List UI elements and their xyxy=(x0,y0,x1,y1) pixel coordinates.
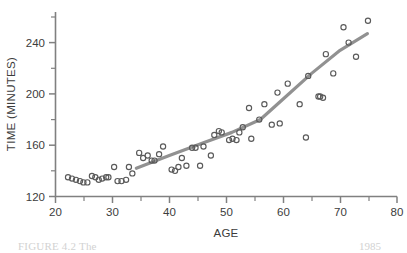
data-point xyxy=(262,102,267,107)
figure-caption: FIGURE 4.2 The 1985 xyxy=(0,242,407,253)
data-point xyxy=(277,121,282,126)
figure-container: 120 160 200 240 20 30 40 50 60 xyxy=(0,0,407,253)
data-point xyxy=(212,132,217,137)
data-point xyxy=(156,152,161,157)
data-point xyxy=(112,164,117,169)
data-point xyxy=(160,144,165,149)
data-point xyxy=(275,90,280,95)
x-tick-label: 60 xyxy=(277,206,290,218)
y-axis-ticks xyxy=(49,17,56,197)
y-axis-title: TIME (MINUTES) xyxy=(5,57,17,151)
caption-right-text: 1985 xyxy=(359,242,381,252)
data-point xyxy=(303,135,308,140)
y-tick-label: 120 xyxy=(26,191,45,203)
data-point xyxy=(269,122,274,127)
data-point xyxy=(323,52,328,57)
data-point xyxy=(179,155,184,160)
data-point xyxy=(341,25,346,30)
caption-left-text: FIGURE 4.2 The xyxy=(18,242,97,252)
x-axis-ticks xyxy=(56,197,398,204)
data-point xyxy=(201,144,206,149)
data-point xyxy=(246,105,251,110)
y-tick-label: 200 xyxy=(26,88,45,100)
data-point xyxy=(353,54,358,59)
scatter-plot: 120 160 200 240 20 30 40 50 60 xyxy=(0,0,407,253)
x-tick-label: 30 xyxy=(106,206,119,218)
data-point xyxy=(137,150,142,155)
data-point xyxy=(197,163,202,168)
trend-line xyxy=(136,34,367,169)
data-point xyxy=(297,102,302,107)
axis-spines xyxy=(56,12,398,197)
data-point xyxy=(126,164,131,169)
x-tick-label: 80 xyxy=(391,206,404,218)
data-point xyxy=(176,164,181,169)
data-point xyxy=(130,171,135,176)
x-tick-label: 40 xyxy=(163,206,176,218)
data-point xyxy=(285,81,290,86)
data-point xyxy=(145,153,150,158)
x-axis-tick-labels: 20 30 40 50 60 70 80 xyxy=(49,206,403,218)
data-point xyxy=(249,136,254,141)
y-axis-tick-labels: 120 160 200 240 xyxy=(26,37,45,203)
x-axis-title: AGE xyxy=(213,227,238,239)
y-tick-label: 160 xyxy=(26,139,45,151)
data-point xyxy=(184,163,189,168)
data-point xyxy=(208,153,213,158)
data-point xyxy=(365,18,370,23)
x-tick-label: 50 xyxy=(220,206,233,218)
x-tick-label: 70 xyxy=(334,206,347,218)
y-tick-label: 240 xyxy=(26,37,45,49)
x-tick-label: 20 xyxy=(49,206,62,218)
data-points-group xyxy=(65,18,370,185)
data-point xyxy=(331,71,336,76)
